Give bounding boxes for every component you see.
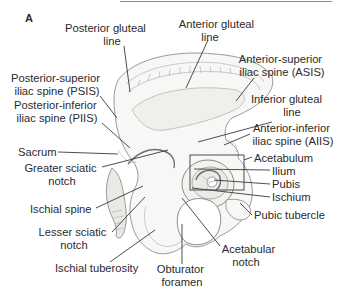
label-inferior-gluteal-line: Inferior gluteal line	[251, 93, 325, 118]
label-lesser-sciatic-notch: Lesser sciatic notch	[39, 226, 110, 251]
label-asis: Anterior-superior iliac spine (ASIS)	[239, 53, 325, 78]
label-ischium: Ischium	[272, 191, 311, 203]
label-sacrum: Sacrum	[18, 146, 57, 158]
hip-bone-illustration	[106, 53, 272, 254]
label-aiis: Anterior-inferior iliac spine (AIIS)	[253, 122, 334, 147]
label-ischial-spine: Ischial spine	[30, 203, 92, 215]
label-obturator-foramen: Obturator foramen	[157, 263, 207, 288]
label-anterior-gluteal-line: Anterior gluteal line	[179, 18, 257, 43]
panel-label: A	[25, 12, 33, 24]
label-psis: Posterior-superior iliac spine (PSIS)	[11, 72, 103, 97]
hip-bone-diagram: A	[0, 0, 344, 296]
label-acetabulum: Acetabulum	[254, 152, 313, 164]
label-ischial-tuberosity: Ischial tuberosity	[55, 262, 139, 274]
label-acetabular-notch: Acetabular notch	[222, 243, 279, 268]
label-pubis: Pubis	[272, 178, 300, 190]
label-piis: Posterior-inferior iliac spine (PIIS)	[14, 99, 100, 124]
label-posterior-gluteal-line: Posterior gluteal line	[65, 22, 149, 47]
label-greater-sciatic-notch: Greater sciatic notch	[24, 162, 99, 187]
label-pubic-tubercle: Pubic tubercle	[254, 209, 325, 221]
label-ilium: Ilium	[272, 165, 296, 177]
